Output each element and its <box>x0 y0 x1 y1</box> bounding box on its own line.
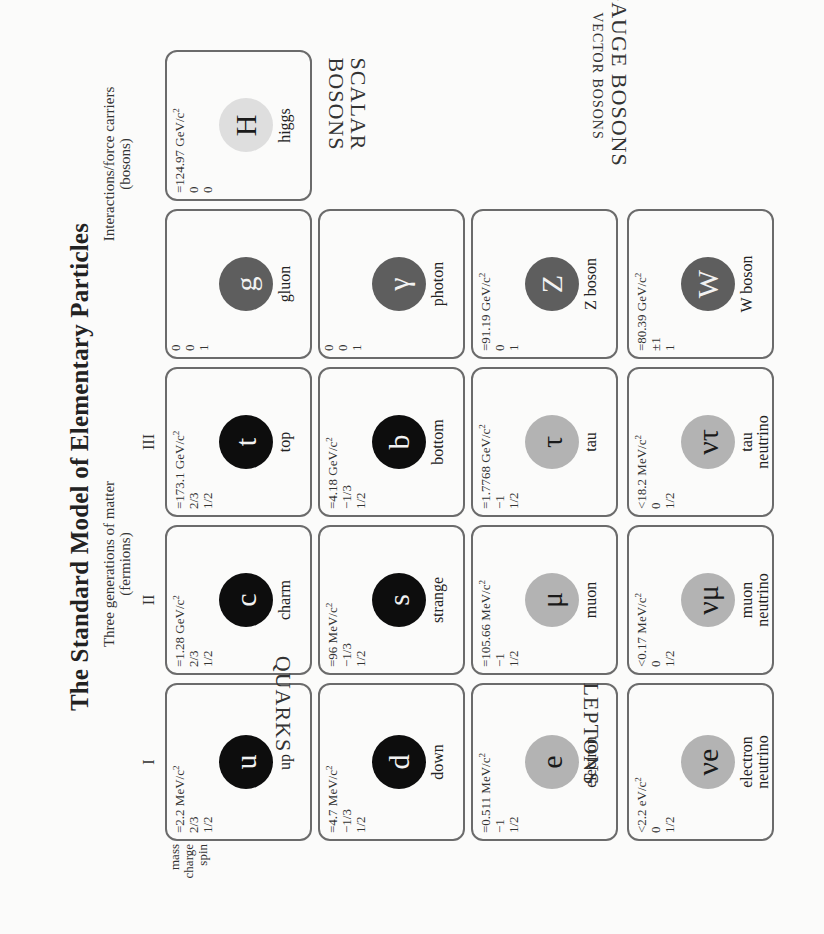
spin-value: 1 <box>350 345 364 352</box>
mass-exponent: 2 <box>171 595 181 600</box>
charge-value: 2/3 <box>187 766 201 833</box>
particle-card-tau-neutrino[interactable]: <18.2 MeV/c2 0 1/2 ντ tau neutrino <box>627 367 774 517</box>
mass-exponent: 2 <box>633 435 643 440</box>
mass-value: =91.19 GeV/c <box>478 277 493 351</box>
mass-value: =173.1 GeV/c <box>172 435 187 509</box>
particle-name: bottom <box>430 369 446 515</box>
particle-name: Z boson <box>583 211 599 357</box>
section-label-quarks: QUARKS <box>270 624 296 784</box>
particle-name: down <box>430 685 446 839</box>
particle-properties: =1.28 GeV/c2 2/3 1/2 <box>169 595 215 667</box>
particle-card-down[interactable]: =4.7 MeV/c2 −1/3 1/2 d down <box>318 683 465 841</box>
mass-exponent: 2 <box>324 437 334 442</box>
particle-symbol-top: t <box>219 415 273 469</box>
particle-symbol-gluon: g <box>219 257 273 311</box>
mass-value: =105.66 MeV/c <box>478 585 493 667</box>
charge-value: 2/3 <box>187 595 201 667</box>
particle-properties: 0 0 1 <box>322 345 364 352</box>
particle-card-muon-neutrino[interactable]: <0.17 MeV/c2 0 1/2 νμ muon neutrino <box>627 525 774 675</box>
particle-symbol-tau: τ <box>525 415 579 469</box>
particle-properties: =0.511 MeV/c2 −1 1/2 <box>475 753 521 833</box>
particle-properties: <2.2 eV/c2 0 1/2 <box>631 777 677 833</box>
particle-properties: 0 0 1 <box>169 345 211 352</box>
charge-value: 0 <box>183 345 197 352</box>
particle-card-strange[interactable]: =96 MeV/c2 −1/3 1/2 s strange <box>318 525 465 675</box>
mass-value: <18.2 MeV/c <box>634 440 649 509</box>
spin-value: 1/2 <box>663 435 677 509</box>
particle-symbol-strange: s <box>372 573 426 627</box>
particle-properties: =4.18 GeV/c2 −1/3 1/2 <box>322 437 368 509</box>
spin-value: 1/2 <box>354 437 368 509</box>
mass-exponent: 2 <box>477 753 487 758</box>
mass-exponent: 2 <box>324 766 334 771</box>
particle-card-photon[interactable]: 0 0 1 γ photon <box>318 209 465 359</box>
vector-bosons-label: VECTOR BOSONS <box>586 0 608 186</box>
particle-card-top[interactable]: =173.1 GeV/c2 2/3 1/2 t top <box>165 367 312 517</box>
particle-symbol-z: Z <box>525 257 579 311</box>
particle-symbol-photon: γ <box>372 257 426 311</box>
mass-value: 0 <box>322 345 336 352</box>
particle-symbol-higgs: H <box>219 99 273 153</box>
fermions-header-line2: (fermions) <box>117 434 133 694</box>
particle-card-gluon[interactable]: 0 0 1 g gluon <box>165 209 312 359</box>
particle-name: higgs <box>277 52 293 199</box>
particle-symbol-bottom: b <box>372 415 426 469</box>
spin-value: 1/2 <box>507 753 521 833</box>
particle-properties: =4.7 MeV/c2 −1/3 1/2 <box>322 766 368 833</box>
particle-properties: =2.2 MeV/c2 2/3 1/2 <box>169 766 215 833</box>
diagram-title: The Standard Model of Elementary Particl… <box>66 0 94 934</box>
mass-exponent: 2 <box>477 580 487 585</box>
mass-value: <2.2 eV/c <box>634 782 649 833</box>
legend-mass: mass <box>168 844 182 894</box>
spin-value: 1/2 <box>507 424 521 509</box>
bosons-header-line2: (bosons) <box>117 54 133 274</box>
particle-card-bottom[interactable]: =4.18 GeV/c2 −1/3 1/2 b bottom <box>318 367 465 517</box>
particle-name: top <box>277 369 293 515</box>
particle-name-line1: tau <box>739 369 755 515</box>
bosons-header: Interactions/force carriers (bosons) <box>101 54 133 274</box>
particle-properties: =80.39 GeV/c2 ±1 1 <box>631 273 677 351</box>
charge-value: 0 <box>649 593 663 667</box>
charge-value: −1 <box>493 753 507 833</box>
spin-value: 1/2 <box>663 777 677 833</box>
mass-value: =0.511 MeV/c <box>478 758 493 833</box>
mass-value: =2.2 MeV/c <box>172 770 187 833</box>
particle-name: gluon <box>277 211 293 357</box>
charge-value: 0 <box>187 108 201 193</box>
charge-value: −1/3 <box>340 766 354 833</box>
particle-name: strange <box>430 527 446 673</box>
particle-name-line1: muon <box>739 527 755 673</box>
mass-value: =124.97 GeV/c <box>172 113 187 193</box>
spin-value: 0 <box>201 108 215 193</box>
particle-name-line2: neutrino <box>755 369 771 515</box>
generation-label-ii: II <box>140 580 158 620</box>
particle-card-electron-neutrino[interactable]: <2.2 eV/c2 0 1/2 νe electron neutrino <box>627 683 774 841</box>
spin-value: 1/2 <box>507 580 521 667</box>
particle-card-higgs[interactable]: =124.97 GeV/c2 0 0 H higgs <box>165 50 312 201</box>
fermions-header-line1: Three generations of matter <box>101 434 117 694</box>
particle-name: muon neutrino <box>739 527 771 673</box>
bosons-header-line1: Interactions/force carriers <box>101 54 117 274</box>
charge-value: −1/3 <box>340 437 354 509</box>
particle-symbol-down: d <box>372 735 426 789</box>
particle-properties: =105.66 MeV/c2 −1 1/2 <box>475 580 521 667</box>
mass-exponent: 2 <box>171 431 181 436</box>
particle-name-line2: neutrino <box>755 527 771 673</box>
section-label-gauge-bosons: GAUGE BOSONS VECTOR BOSONS <box>586 0 630 186</box>
spin-value: 1 <box>197 345 211 352</box>
charge-value: 0 <box>649 435 663 509</box>
particle-symbol-tau-neutrino: ντ <box>681 415 735 469</box>
particle-symbol-muon: μ <box>525 573 579 627</box>
particle-properties: =91.19 GeV/c2 0 1 <box>475 273 521 351</box>
particle-name: tau neutrino <box>739 369 771 515</box>
particle-card-tau[interactable]: =1.7768 GeV/c2 −1 1/2 τ tau <box>471 367 618 517</box>
particle-name: W boson <box>739 211 755 357</box>
spin-value: 1/2 <box>201 766 215 833</box>
particle-card-w-boson[interactable]: =80.39 GeV/c2 ±1 1 W W boson <box>627 209 774 359</box>
particle-card-z-boson[interactable]: =91.19 GeV/c2 0 1 Z Z boson <box>471 209 618 359</box>
property-legend: mass charge spin <box>168 844 210 894</box>
charge-value: −1/3 <box>340 603 354 667</box>
particle-symbol-charm: c <box>219 573 273 627</box>
spin-value: 1/2 <box>354 603 368 667</box>
standard-model-diagram: The Standard Model of Elementary Particl… <box>0 0 824 934</box>
